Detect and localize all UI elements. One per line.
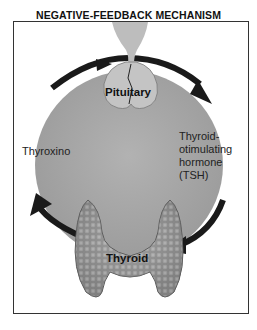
tsh-label-line: (TSH) — [179, 169, 232, 182]
pituitary-label: Pituitary — [105, 86, 151, 99]
tsh-label: Thyroid- otimulating hormone (TSH) — [179, 130, 232, 182]
tsh-label-line: otimulating — [179, 143, 232, 156]
tsh-label-line: hormone — [179, 156, 232, 169]
thyroid-label: Thyroid — [106, 252, 148, 265]
thyroxine-label: Thyroxino — [22, 145, 70, 158]
tsh-label-line: Thyroid- — [179, 130, 232, 143]
diagram-title: NEGATIVE-FEEDBACK MECHANISM — [0, 9, 257, 21]
